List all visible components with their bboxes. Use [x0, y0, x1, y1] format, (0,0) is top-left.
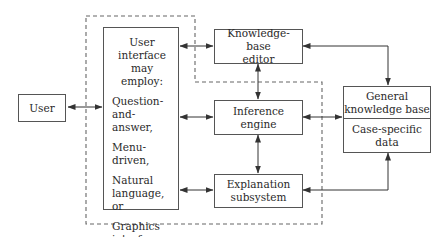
general-kb-label: General knowledge base: [344, 87, 430, 119]
knowledge-base-box: General knowledge base Case-specific dat…: [343, 86, 431, 153]
case-data-label: Case-specific data: [344, 119, 430, 152]
kb-editor-box: Knowledge-base editor: [214, 29, 303, 64]
inference-engine-label: Inference engine: [215, 105, 302, 131]
user-interface-box: User interface may employ: Question-and-…: [103, 27, 179, 210]
user-label: User: [29, 102, 54, 115]
edge-kbeditor-kb: [303, 46, 388, 85]
inference-engine-box: Inference engine: [214, 100, 303, 135]
ui-style-qa: Question-and- answer,: [112, 95, 172, 134]
edge-explanation-kb: [303, 153, 388, 190]
ui-style-menu: Menu-driven,: [112, 141, 172, 167]
ui-style-graphics: Graphics interface styles: [112, 220, 160, 237]
ui-style-natural: Natural language, or: [112, 174, 172, 213]
kb-editor-label: Knowledge-base editor: [215, 27, 302, 66]
user-box: User: [18, 94, 66, 122]
explanation-box: Explanation subsystem: [214, 174, 303, 208]
ui-heading: User interface may employ:: [112, 36, 172, 88]
explanation-label: Explanation subsystem: [227, 178, 291, 204]
